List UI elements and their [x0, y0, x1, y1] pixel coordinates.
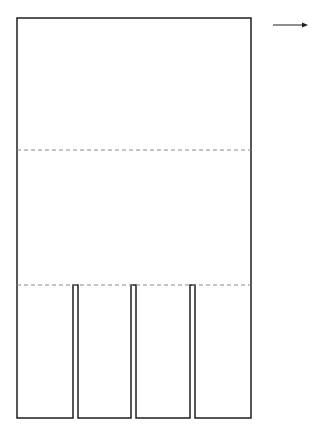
sheet-outline: [17, 18, 251, 418]
fold-lines: [17, 150, 251, 285]
sheet-outline-path: [17, 18, 251, 418]
folding-diagram: [0, 0, 321, 440]
direction-arrow-icon: [273, 23, 308, 28]
arrow-head-icon: [302, 23, 308, 28]
